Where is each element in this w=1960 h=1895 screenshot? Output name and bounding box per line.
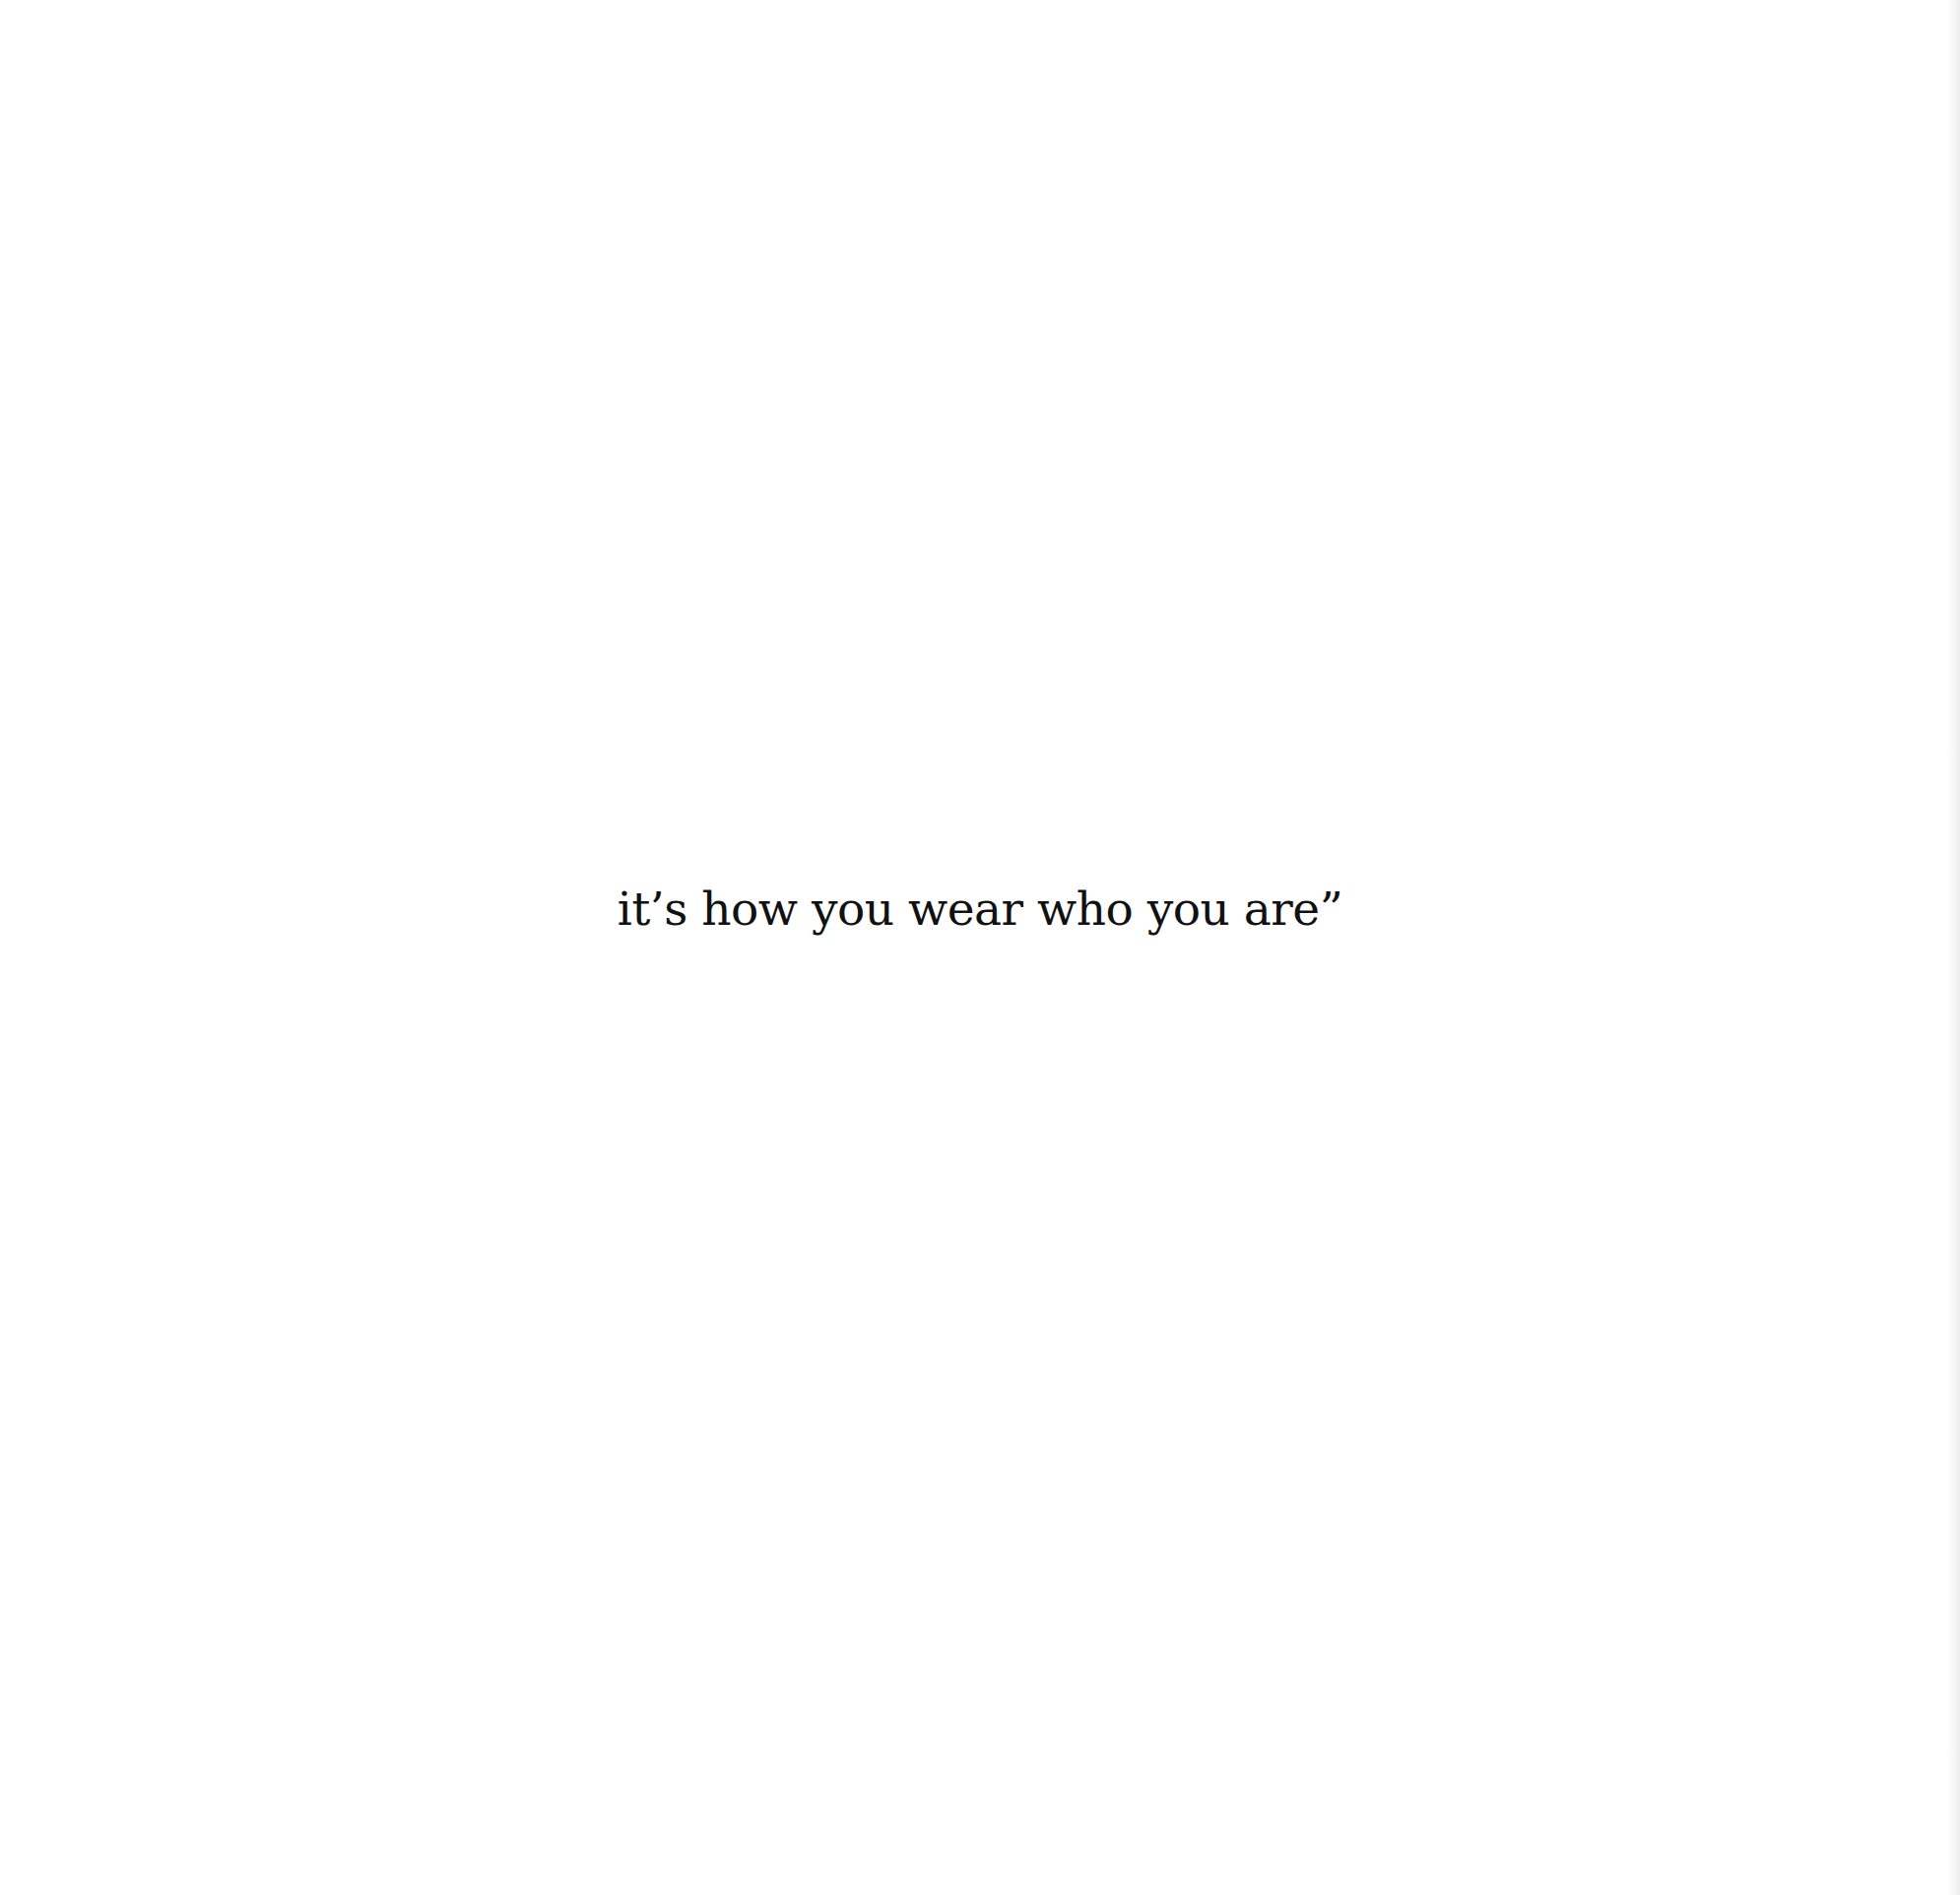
- document-page: it’s how you wear who you are”: [0, 0, 1960, 1895]
- quote-text: it’s how you wear who you are”: [0, 880, 1960, 939]
- page-edge-shadow: [1946, 0, 1960, 1895]
